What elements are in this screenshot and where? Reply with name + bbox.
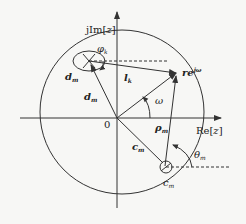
- l-vector-label: lk: [124, 72, 132, 84]
- real-axis-label: Re[z]: [196, 125, 223, 136]
- d-small-label: dm: [65, 71, 78, 83]
- phi-label: φk: [97, 43, 108, 55]
- imag-axis-label: jIm[z]: [85, 24, 116, 35]
- theta-arc: [173, 145, 192, 167]
- point-label: rejω: [182, 66, 202, 78]
- d-vector-label: dm: [84, 91, 97, 103]
- main-circle: [40, 30, 204, 194]
- omega-label: ω: [155, 95, 163, 106]
- d-vector: [91, 65, 117, 118]
- rho-label: ρm: [154, 122, 168, 134]
- theta-label: θm: [194, 149, 206, 161]
- diagram-svg: jIm[z] Re[z] 0 φk dm dm lk rejω ω ρm cm …: [0, 0, 246, 224]
- origin-label: 0: [104, 119, 110, 130]
- z-plane-diagram: jIm[z] Re[z] 0 φk dm dm lk rejω ω ρm cm …: [0, 0, 246, 224]
- omega-arc: [143, 97, 150, 118]
- rho-vector: [165, 76, 176, 166]
